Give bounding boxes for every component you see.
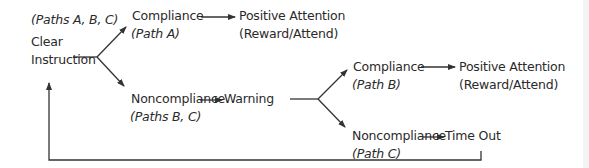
arrow-to-noncompliance-bc [97,57,124,86]
reward-attend-b-label: (Reward/Attend) [459,77,558,92]
path-b-label: (Path B) [352,77,401,92]
reward-attend-a-label: (Reward/Attend) [239,26,338,41]
warning-label: Warning [224,91,274,106]
arrow-to-compliance-a [97,27,126,57]
instruction-label: Instruction [31,52,96,67]
paths-bc-label: (Paths B, C) [130,109,201,124]
positive-attention-a-label: Positive Attention [239,8,345,23]
arrow-to-compliance-b [318,70,347,99]
clear-label: Clear [31,34,63,49]
positive-attention-b-label: Positive Attention [459,59,565,74]
time-out-label: Time Out [445,128,501,143]
noncompliance-c-label: Noncompliance [352,128,446,143]
arrow-to-noncompliance-c [318,99,345,127]
noncompliance-bc-label: Noncompliance [131,91,225,106]
compliance-a-label: Compliance [132,8,204,23]
paths-abc-note: (Paths A, B, C) [31,12,118,27]
path-a-label: (Path A) [131,26,180,41]
compliance-b-label: Compliance [353,59,425,74]
path-c-label: (Path C) [352,146,401,161]
